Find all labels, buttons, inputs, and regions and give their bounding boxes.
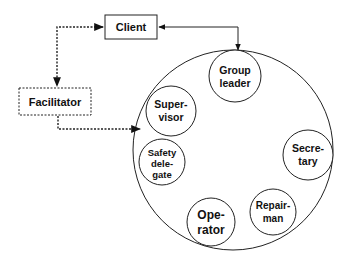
- role-label-line: gate: [152, 169, 172, 180]
- role-label-line: tary: [298, 155, 317, 167]
- role-secretary[interactable]: Secre- tary: [283, 130, 333, 180]
- role-label-line: Super-: [154, 98, 188, 110]
- facilitator-group-edge: [58, 116, 140, 129]
- role-label-line: visor: [158, 111, 183, 123]
- role-operator[interactable]: Ope- rator: [187, 198, 235, 246]
- role-label-line: Secre-: [292, 142, 325, 154]
- role-label-line: Safety: [148, 147, 177, 158]
- role-label-line: Group: [219, 64, 251, 76]
- role-group-leader[interactable]: Group leader: [209, 50, 261, 102]
- role-label-line: Repair-: [256, 200, 290, 211]
- client-label: Client: [116, 21, 147, 33]
- facilitator-label: Facilitator: [29, 96, 82, 108]
- role-label-line: dele-: [151, 158, 173, 169]
- role-repairman[interactable]: Repair- man: [250, 189, 296, 235]
- client-node[interactable]: Client: [105, 15, 157, 39]
- role-safety-delegate[interactable]: Safety dele- gate: [139, 139, 185, 185]
- role-label-line: Ope-: [197, 208, 224, 222]
- role-label-line: man: [263, 213, 284, 224]
- client-groupleader-edge: [159, 27, 238, 50]
- role-label-line: leader: [220, 77, 251, 89]
- diagram-canvas: Client Facilitator Group leader Super- v…: [0, 0, 351, 263]
- role-label-line: rator: [197, 223, 225, 237]
- facilitator-node[interactable]: Facilitator: [19, 88, 91, 115]
- client-facilitator-edge: [57, 27, 103, 86]
- role-supervisor[interactable]: Super- visor: [146, 86, 196, 136]
